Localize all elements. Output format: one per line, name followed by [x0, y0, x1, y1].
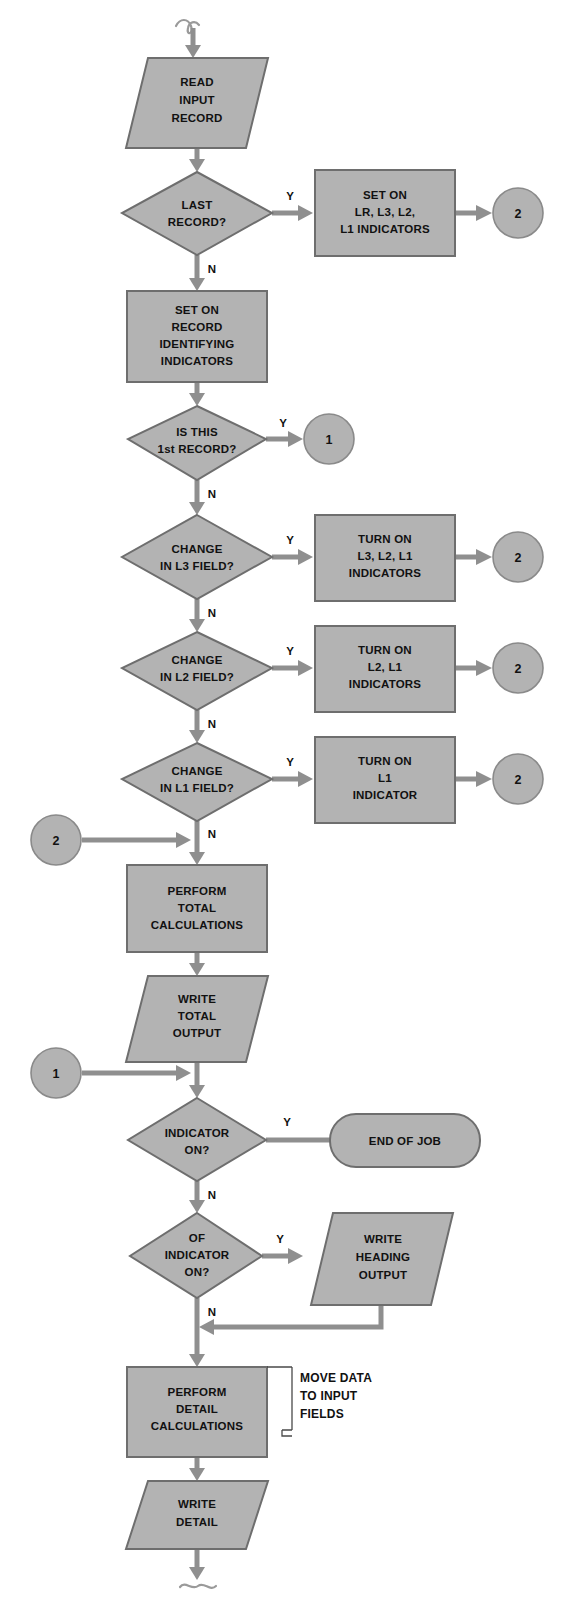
node-change-l3-line-1: CHANGE [171, 543, 222, 555]
node-write-total-line-2: TOTAL [178, 1010, 216, 1022]
branch-label-changel1-yes: Y [286, 756, 294, 768]
node-is-first-record-line-1: IS THIS [176, 426, 218, 438]
flow-indicator-no [189, 1181, 205, 1213]
flow-isfirst-yes [266, 431, 303, 447]
node-read-input-record-line-2: INPUT [179, 94, 215, 106]
flow-changel2-no [189, 710, 205, 743]
flow-detail-to-writedetail [189, 1457, 205, 1481]
connector-2-top-right[interactable]: 2 [493, 188, 543, 238]
flow-lastrecord-no [189, 255, 205, 291]
connector-2-l2-row-label: 2 [515, 662, 522, 676]
flow-changel1-no [189, 821, 205, 865]
flow-changel3-yes [272, 549, 313, 565]
node-perform-total-calculations[interactable]: PERFORM TOTAL CALCULATIONS [127, 865, 267, 952]
connector-1-left-merge-label: 1 [53, 1067, 60, 1081]
node-of-indicator-line-1: OF [189, 1232, 205, 1244]
node-last-record-decision[interactable]: LAST RECORD? [122, 172, 272, 255]
node-of-indicator-line-3: ON? [185, 1266, 210, 1278]
node-turn-on-l1-line-2: L1 [378, 772, 392, 784]
node-write-detail-line-2: DETAIL [176, 1516, 218, 1528]
branch-label-changel2-no: N [208, 718, 216, 730]
flowchart-diagram: READ INPUT RECORD LAST RECORD? Y N SET O… [0, 0, 579, 1624]
node-turn-on-l3-line-1: TURN ON [358, 533, 412, 545]
node-write-total-output[interactable]: WRITE TOTAL OUTPUT [126, 976, 268, 1062]
exit-connector-squiggle [180, 1549, 216, 1588]
node-indicator-on-decision[interactable]: INDICATOR ON? [128, 1098, 266, 1181]
node-indicator-on-line-2: ON? [185, 1144, 210, 1156]
connector-2-l1-row[interactable]: 2 [493, 754, 543, 804]
node-change-l2-decision[interactable]: CHANGE IN L2 FIELD? [122, 632, 272, 710]
node-turn-on-l1-indicator[interactable]: TURN ON L1 INDICATOR [315, 737, 455, 823]
flow-changel1-yes [272, 771, 313, 787]
node-write-detail-line-1: WRITE [178, 1498, 216, 1510]
flow-changel3-no [189, 599, 205, 632]
node-turn-on-l2-indicators[interactable]: TURN ON L2, L1 INDICATORS [315, 626, 455, 712]
node-write-detail[interactable]: WRITE DETAIL [126, 1481, 268, 1549]
node-of-indicator-on-decision[interactable]: OF INDICATOR ON? [130, 1213, 262, 1298]
branch-label-changel3-no: N [208, 607, 216, 619]
branch-label-changel3-yes: Y [286, 534, 294, 546]
branch-label-ofindicator-yes: Y [276, 1233, 284, 1245]
flow-conn1-merge [82, 1065, 191, 1081]
node-set-on-record-identifying[interactable]: SET ON RECORD IDENTIFYING INDICATORS [127, 291, 267, 382]
node-turn-on-l1-line-1: TURN ON [358, 755, 412, 767]
node-turn-on-l2-line-3: INDICATORS [349, 678, 422, 690]
annotation-line-1: MOVE DATA [300, 1371, 372, 1385]
node-turn-on-l3-line-3: INDICATORS [349, 567, 422, 579]
entry-connector-squiggle [176, 20, 201, 58]
node-change-l3-line-2: IN L3 FIELD? [160, 560, 234, 572]
node-perform-total-line-3: CALCULATIONS [151, 919, 243, 931]
node-perform-detail-calculations[interactable]: PERFORM DETAIL CALCULATIONS [127, 1367, 267, 1457]
connector-2-l3-row[interactable]: 2 [493, 532, 543, 582]
node-write-heading-line-1: WRITE [364, 1233, 402, 1245]
node-turn-on-l3-indicators[interactable]: TURN ON L3, L2, L1 INDICATORS [315, 515, 455, 601]
flow-changel2-yes [272, 660, 313, 676]
node-change-l3-decision[interactable]: CHANGE IN L3 FIELD? [122, 515, 272, 599]
branch-label-changel2-yes: Y [286, 645, 294, 657]
node-is-first-record-decision[interactable]: IS THIS 1st RECORD? [128, 406, 266, 480]
connector-2-l2-row[interactable]: 2 [493, 643, 543, 693]
node-change-l1-decision[interactable]: CHANGE IN L1 FIELD? [122, 743, 272, 821]
node-set-on-record-line-2: RECORD [171, 321, 222, 333]
flow-writetotal-to-indicator [189, 1062, 205, 1098]
node-set-on-record-line-1: SET ON [175, 304, 219, 316]
node-set-on-lr-indicators[interactable]: SET ON LR, L3, L2, L1 INDICATORS [315, 170, 455, 256]
branch-label-lastrecord-no: N [208, 263, 216, 275]
node-write-heading-line-3: OUTPUT [359, 1269, 407, 1281]
flow-setonrec-to-isfirst [189, 382, 205, 406]
node-change-l1-line-1: CHANGE [171, 765, 222, 777]
flow-writeheading-loopback [199, 1305, 381, 1335]
flow-turnonl2-to-conn2 [455, 660, 492, 676]
flow-lastrecord-yes [272, 205, 313, 221]
node-last-record-line-2: RECORD? [168, 216, 226, 228]
node-of-indicator-line-2: INDICATOR [165, 1249, 230, 1261]
annotation-line-3: FIELDS [300, 1407, 344, 1421]
node-end-of-job-terminator[interactable]: END OF JOB [330, 1114, 480, 1167]
node-perform-total-line-1: PERFORM [168, 885, 227, 897]
branch-label-isfirst-yes: Y [279, 417, 287, 429]
node-read-input-record[interactable]: READ INPUT RECORD [126, 58, 268, 148]
flow-ofindicator-yes [262, 1248, 303, 1264]
connector-1-left-merge[interactable]: 1 [31, 1048, 81, 1098]
node-turn-on-l2-line-1: TURN ON [358, 644, 412, 656]
node-turn-on-l3-line-2: L3, L2, L1 [357, 550, 412, 562]
node-perform-detail-line-1: PERFORM [168, 1386, 227, 1398]
connector-2-left-merge[interactable]: 2 [31, 815, 81, 865]
connector-1-right[interactable]: 1 [304, 414, 354, 464]
node-last-record-line-1: LAST [182, 199, 213, 211]
node-indicator-on-line-1: INDICATOR [165, 1127, 230, 1139]
node-set-on-lr-line-2: LR, L3, L2, [355, 206, 415, 218]
node-perform-detail-line-2: DETAIL [176, 1403, 218, 1415]
connector-2-l3-row-label: 2 [515, 551, 522, 565]
node-write-heading-output[interactable]: WRITE HEADING OUTPUT [311, 1213, 453, 1305]
node-turn-on-l1-line-3: INDICATOR [353, 789, 418, 801]
node-perform-detail-line-3: CALCULATIONS [151, 1420, 243, 1432]
node-change-l2-line-2: IN L2 FIELD? [160, 671, 234, 683]
branch-label-indicator-yes: Y [283, 1116, 291, 1128]
node-change-l2-line-1: CHANGE [171, 654, 222, 666]
flow-ofindicator-no [189, 1298, 205, 1367]
node-set-on-lr-line-1: SET ON [363, 189, 407, 201]
node-turn-on-l2-line-2: L2, L1 [368, 661, 403, 673]
connector-2-top-right-label: 2 [515, 207, 522, 221]
branch-label-indicator-no: N [208, 1189, 216, 1201]
